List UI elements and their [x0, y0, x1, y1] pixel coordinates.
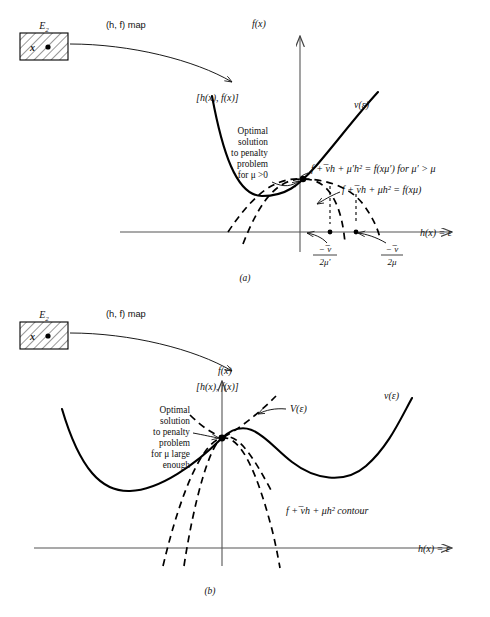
panel-b-annot-line-4: for μ large: [151, 449, 190, 459]
panel-b-penalty-contour-second: [184, 437, 272, 566]
panel-b-point-label: x: [29, 331, 35, 342]
panel-b-tangency-point: [219, 435, 226, 442]
panel-a-label: (a): [239, 273, 250, 284]
panel-a-annot-line-2: to penalty: [231, 148, 268, 158]
panel-a-point-label: x: [29, 42, 35, 53]
panel-b-label: (b): [204, 586, 215, 597]
panel-b-map-arrow: [70, 333, 232, 371]
panel-a-equation-lower: f + ̅vh + μh² = f(xμ): [342, 184, 422, 196]
panel-a-tick-label-muprime: − ̅v 2μ′: [313, 244, 337, 267]
panel-a-equation-upper: f + ̅vh + μ′h² = f(xμ′) for μ′ > μ: [311, 163, 435, 175]
panel-b-map-label: (h, f) map: [106, 309, 146, 319]
panel-a-equation-lower-leader: [317, 192, 340, 204]
panel-b-contour-label: f + ̅vh + μh² contour: [286, 505, 368, 516]
panel-a-annot-line-3: problem: [237, 159, 269, 169]
panel-a-vertex-mu-dot: [354, 230, 359, 235]
panel-a-image-point-label: [h(x), f(x)]: [196, 92, 239, 104]
panel-b-source-box-label: E2: [38, 309, 49, 323]
panel-b-annot-line-3: problem: [159, 438, 191, 448]
panel-a-annot-line-1: solution: [238, 137, 268, 147]
panel-b-source-set: [20, 322, 68, 349]
panel-a-map-arrow: [70, 44, 232, 82]
panel-b-annotation: Optimal solution to penalty problem for …: [151, 405, 191, 470]
panel-b-annot-line-5: enough: [163, 460, 191, 470]
panel-b-y-axis-label: f(x): [218, 365, 233, 377]
panel-a-tick-label-mu: − ̅v 2μ: [381, 244, 403, 267]
panel-b-value-function-label-2: V(ε): [290, 403, 307, 415]
figure-container: E2 x (h, f) map [h(x), f(x)] f(x) h(x) =…: [0, 0, 490, 617]
panel-a-annot-line-4: for μ >0: [238, 170, 269, 180]
panel-a-map-label: (h, f) map: [106, 20, 146, 30]
panel-a-tick-muprime-num: − ̅v: [319, 244, 331, 254]
panel-a-annot-line-0: Optimal: [238, 126, 269, 136]
panel-a-annotation: Optimal solution to penalty problem for …: [231, 126, 269, 180]
panel-b-value-function-leader: [258, 409, 286, 414]
panel-b-annot-line-0: Optimal: [160, 405, 191, 415]
panel-a-tick-mu-leader: [358, 233, 386, 243]
panel-a-source-set: [20, 33, 68, 60]
panel-a-source-box-label: E2: [38, 20, 49, 34]
panel-b-annotation-leader: [193, 433, 219, 438]
panel-b-annot-line-1: solution: [160, 416, 190, 426]
panel-b-value-function-label: v(ε): [384, 390, 400, 402]
panel-a-tick-muprime-leader: [307, 233, 327, 243]
panel-a-value-function-label: v(ε): [354, 99, 370, 111]
panel-a-x-axis-label: h(x) = ε: [420, 227, 452, 239]
panel-b-x-axis-label: h(x) = ε: [418, 543, 450, 555]
panel-a-tick-mu-den: 2μ: [387, 257, 397, 267]
panel-a-tick-muprime-den: 2μ′: [320, 257, 332, 267]
panel-a-y-axis-label: f(x): [252, 18, 267, 30]
panel-b-image-point-label: [h(x), f(x)]: [196, 381, 239, 393]
panel-a-tick-mu-num: − ̅v: [386, 244, 398, 254]
panel-a-vertex-muprime-dot: [328, 230, 333, 235]
panel-b-annot-line-2: to penalty: [153, 427, 190, 437]
